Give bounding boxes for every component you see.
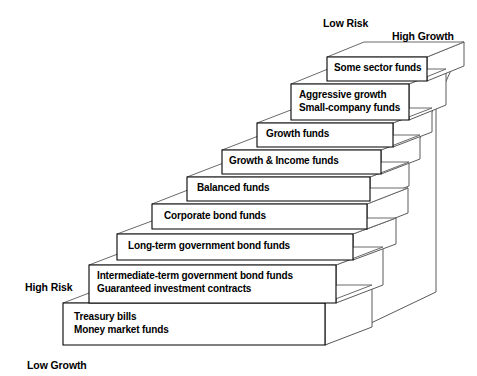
step-9-label: Some sector funds bbox=[334, 62, 421, 75]
step-2-label: Intermediate-term government bond fundsG… bbox=[97, 270, 293, 295]
step-3-label: Long-term government bond funds bbox=[128, 240, 290, 253]
step-5-label: Balanced funds bbox=[197, 182, 269, 195]
step-8-label-line: Aggressive growth bbox=[299, 89, 400, 102]
step-1-label: Treasury billsMoney market funds bbox=[74, 311, 169, 336]
step-2-label-line: Intermediate-term government bond funds bbox=[97, 270, 293, 283]
axis-label-high-risk: High Risk bbox=[25, 281, 73, 293]
step-6-label: Growth & Income funds bbox=[229, 155, 339, 168]
step-6-label-line: Growth & Income funds bbox=[229, 155, 339, 168]
step-8-label: Aggressive growthSmall-company funds bbox=[299, 89, 400, 114]
step-9-label-line: Some sector funds bbox=[334, 62, 421, 75]
step-4-label: Corporate bond funds bbox=[164, 210, 266, 223]
axis-label-low-risk: Low Risk bbox=[323, 17, 368, 29]
step-3-label-line: Long-term government bond funds bbox=[128, 240, 290, 253]
step-7-label-line: Growth funds bbox=[266, 128, 329, 141]
axis-label-low-growth: Low Growth bbox=[27, 359, 87, 371]
axis-label-high-growth: High Growth bbox=[392, 30, 454, 42]
step-8-label-line: Small-company funds bbox=[299, 102, 400, 115]
step-2-label-line: Guaranteed investment contracts bbox=[97, 283, 293, 296]
diagram-canvas: Treasury billsMoney market fundsIntermed… bbox=[0, 0, 477, 376]
step-1-label-line: Treasury bills bbox=[74, 311, 169, 324]
step-7-label: Growth funds bbox=[266, 128, 329, 141]
step-5-label-line: Balanced funds bbox=[197, 182, 269, 195]
step-1-label-line: Money market funds bbox=[74, 324, 169, 337]
step-4-label-line: Corporate bond funds bbox=[164, 210, 266, 223]
